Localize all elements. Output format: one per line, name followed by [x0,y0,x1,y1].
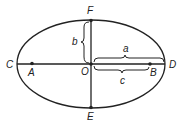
point-a [30,62,34,66]
point-b [148,62,152,66]
label-a-param: a [123,43,129,54]
ellipse-diagram: F E C D O A B b a c [0,0,186,127]
point-e [89,106,93,110]
label-c: C [6,59,14,70]
label-f: F [87,5,94,16]
brace-b [81,22,89,63]
point-o [89,62,93,66]
label-e: E [87,111,94,122]
label-d: D [169,59,176,70]
label-b-point: B [150,67,157,78]
brace-a [94,55,164,62]
point-f [89,19,93,23]
brace-c [94,66,149,73]
label-c-param: c [120,75,125,86]
label-o: O [81,66,89,77]
label-b-param: b [72,36,78,47]
label-a-point: A [27,67,35,78]
